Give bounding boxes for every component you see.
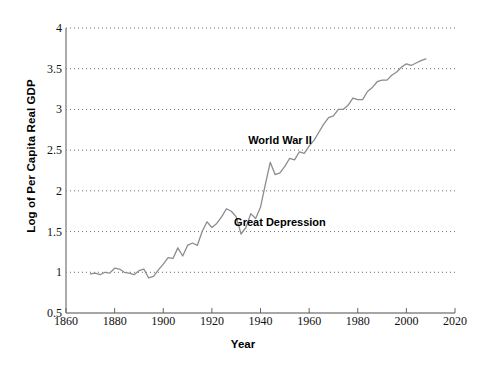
axis-lines (66, 28, 455, 313)
data-line-series (90, 59, 426, 278)
axis-ticks (66, 308, 455, 313)
plot-area (0, 0, 486, 366)
chart-figure: Log of Per Capita Real GDP Year 0.511.52… (0, 0, 486, 366)
annotation-great-depression: Great Depression (234, 216, 326, 228)
annotation-world-war-ii: World War II (248, 134, 312, 146)
gridlines (66, 28, 455, 272)
